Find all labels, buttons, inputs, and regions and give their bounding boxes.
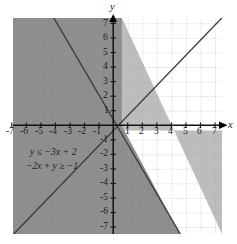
x-tick-label--2: -2: [78, 127, 86, 137]
x-axis-arrow-icon: [219, 121, 228, 129]
coordinate-plane: [0, 0, 237, 244]
x-tick-label--6: -6: [20, 127, 28, 137]
x-tick-label-3: 3: [154, 127, 159, 137]
y-axis-label: y: [110, 2, 115, 13]
x-tick-label--7: -7: [6, 127, 14, 137]
x-tick-label-6: 6: [197, 127, 202, 137]
inequality-label-2: −2x + y ≥ −1: [26, 162, 78, 172]
inequality-label-1: y ≤ −3x + 2: [30, 148, 77, 158]
y-tick-label--4: -4: [100, 178, 108, 188]
y-tick-label-6: 6: [103, 33, 108, 43]
y-tick-label--2: -2: [100, 149, 108, 159]
x-tick-label-1: 1: [125, 127, 130, 137]
y-tick-label--5: -5: [100, 193, 108, 203]
x-tick-label--4: -4: [49, 127, 57, 137]
y-tick-label--3: -3: [100, 164, 108, 174]
y-tick-label-1: 1: [104, 106, 109, 116]
y-tick-label--1: -1: [100, 135, 108, 145]
x-tick-label-5: 5: [183, 127, 188, 137]
y-tick-label-3: 3: [103, 77, 108, 87]
x-tick-label-4: 4: [168, 127, 173, 137]
y-tick-label-4: 4: [103, 62, 108, 72]
x-tick-label--5: -5: [35, 127, 43, 137]
y-tick-label-5: 5: [103, 48, 108, 58]
x-axis-label: x: [228, 120, 233, 131]
y-tick-label--6: -6: [100, 207, 108, 217]
y-tick-label-7: 7: [103, 19, 108, 29]
x-tick-label--3: -3: [64, 127, 72, 137]
graph-figure: y x -7 -6 -5 -4 -3 -2 -1 1 2 3 4 5 6 7 7…: [0, 0, 237, 244]
x-tick-label-7: 7: [212, 127, 217, 137]
y-tick-label--7: -7: [100, 222, 108, 232]
x-tick-label-2: 2: [139, 127, 144, 137]
y-tick-label-2: 2: [103, 91, 108, 101]
